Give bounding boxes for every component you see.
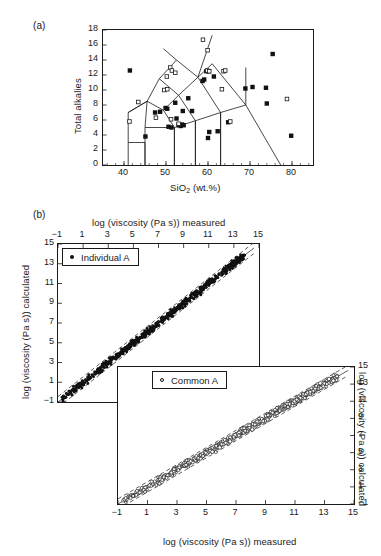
panel-b1-x-tick-13: 13 [221,229,245,239]
figure-root: (a) Total alkalies SiO2 (wt.%) 024681012… [0,0,381,556]
panel-b1-x-tick--1: −1 [45,229,69,239]
legend-common-a: Common A [152,371,227,389]
panel-b-letter: (b) [33,209,46,220]
panel-a-letter: (a) [33,20,46,31]
legend-individual-a: Individual A [62,248,139,266]
panel-a-plot-area [102,29,314,166]
panel-a-x-tick-60: 60 [195,167,219,177]
panel-a-x-tick-40: 40 [111,167,135,177]
panel-a-y-axis-title: Total alkalies [72,78,83,134]
panel-b1-x-tick-5: 5 [120,229,144,239]
panel-b1-y-tick--1: −1 [32,395,54,405]
panel-a-x-axis-title: SiO2 (wt.%) [170,182,220,194]
panel-b1-y-tick-1: 1 [32,375,54,385]
panel-b2-x-tick-11: 11 [282,507,306,517]
panel-a-x-tick-70: 70 [237,167,261,177]
panel-b2-x-tick-1: 1 [135,507,159,517]
tas-diagram-canvas [103,30,313,165]
panel-b1-x-tick-9: 9 [171,229,195,239]
panel-b1-x-tick-1: 1 [70,229,94,239]
panel-b1-y-tick-5: 5 [32,336,54,346]
panel-b1-y-axis-title: log (viscosity (Pa s)) calculated [20,265,31,399]
panel-b2-x-tick--1: −1 [105,507,129,517]
panel-b1-y-tick-11: 11 [32,277,54,287]
panel-b2-x-tick-5: 5 [194,507,218,517]
panel-b2-x-tick-13: 13 [312,507,336,517]
panel-b2-x-tick-3: 3 [164,507,188,517]
panel-b1-y-tick-13: 13 [32,257,54,267]
legend-common-a-label: Common A [171,375,218,386]
panel-a-y-tick-14: 14 [76,53,98,63]
panel-b1-y-tick-3: 3 [32,356,54,366]
panel-a-x-tick-50: 50 [153,167,177,177]
panel-b2-x-tick-7: 7 [223,507,247,517]
open-circle-icon [160,378,164,382]
panel-b1-x-tick-3: 3 [95,229,119,239]
panel-b1-x-tick-15: 15 [246,229,270,239]
panel-b2-bottom-axis-title: log (viscosity (Pa s)) measured [163,536,297,547]
legend-individual-a-label: Individual A [81,252,130,263]
panel-a-y-tick-12: 12 [76,68,98,78]
panel-b1-y-tick-7: 7 [32,316,54,326]
panel-b2-x-tick-15: 15 [341,507,365,517]
panel-a-x-tick-80: 80 [279,167,303,177]
panel-a-y-tick-2: 2 [76,143,98,153]
panel-b2-y-tick-15: 15 [358,360,368,370]
panel-b1-top-axis-title: log (viscosity (Pa s)) measured [92,217,226,228]
panel-b1-y-tick-9: 9 [32,296,54,306]
panel-b2-y-axis-title: log (viscosity (Pa s)) calculated [357,372,368,506]
filled-circle-icon [70,255,74,259]
panel-a-y-tick-0: 0 [76,158,98,168]
panel-b1-x-tick-7: 7 [146,229,170,239]
panel-b1-y-tick-15: 15 [32,237,54,247]
panel-a-y-tick-16: 16 [76,38,98,48]
panel-a-y-tick-18: 18 [76,23,98,33]
panel-a-x-axis-title-post: (wt.%) [190,182,220,193]
panel-b1-x-tick-11: 11 [196,229,220,239]
panel-b2-x-tick-9: 9 [253,507,277,517]
panel-a-x-axis-title-pre: SiO [170,182,186,193]
